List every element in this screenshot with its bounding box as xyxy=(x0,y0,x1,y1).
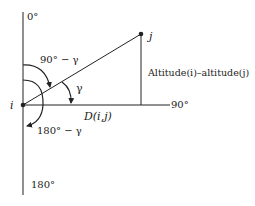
arc-gamma xyxy=(62,82,71,103)
label-altitude-difference: Altitude(i)–altitude(j) xyxy=(147,67,249,78)
label-point-i: i xyxy=(10,99,14,112)
label-90-minus-gamma: 90° − γ xyxy=(40,54,78,65)
angle-diagram: 0° 180° 90° i j γ 90° − γ 180° − γ D(i,j… xyxy=(0,0,255,206)
point-j-marker xyxy=(139,32,144,37)
label-0-degrees: 0° xyxy=(27,11,38,22)
label-180-minus-gamma: 180° − γ xyxy=(37,125,82,136)
point-i-marker xyxy=(21,103,26,108)
label-distance: D(i,j) xyxy=(83,110,112,123)
label-90-degrees: 90° xyxy=(171,99,189,110)
label-gamma: γ xyxy=(76,82,83,95)
label-180-degrees: 180° xyxy=(31,179,55,190)
label-point-j: j xyxy=(146,30,153,43)
